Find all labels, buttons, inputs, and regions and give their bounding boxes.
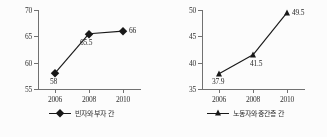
- x-tick-mark-right: [219, 89, 220, 93]
- data-point-marker: [284, 9, 290, 15]
- data-point-label: 41.5: [250, 59, 262, 68]
- y-tick-mark-right: [198, 89, 202, 90]
- legend-marker-diamond: [49, 113, 71, 114]
- y-tick-label-right: 35: [189, 85, 196, 94]
- x-tick-mark-right: [287, 89, 288, 93]
- data-point-label: 37.9: [212, 77, 224, 86]
- y-tick-label-left: 70: [25, 6, 32, 15]
- data-point-marker: [216, 70, 222, 76]
- chart-panel-rich-poor-gap: 70 65 60 55 2006 2008 2010 58 65.5: [0, 0, 163, 137]
- y-tick-label-right: 40: [189, 58, 196, 67]
- figure-container: 70 65 60 55 2006 2008 2010 58 65.5: [0, 0, 327, 137]
- chart-panel-worker-middleclass-gap: 50 45 40 35 2006 2008 2010 37.9 41.5: [164, 0, 327, 137]
- x-tick-label-left: 2008: [82, 95, 96, 104]
- legend-label-worker-middleclass-gap: 노동자와 중간층 간: [233, 108, 284, 118]
- plot-area-right: 50 45 40 35 2006 2008 2010 37.9 41.5: [202, 10, 304, 89]
- data-point-label: 49.5: [292, 8, 304, 17]
- y-tick-mark-left: [34, 89, 38, 90]
- x-tick-label-left: 2006: [48, 95, 62, 104]
- x-tick-label-right: 2008: [246, 95, 260, 104]
- y-tick-label-left: 65: [25, 32, 32, 41]
- x-tick-label-right: 2006: [212, 95, 226, 104]
- y-tick-label-left: 60: [25, 58, 32, 67]
- legend-label-rich-poor-gap: 빈자와 부자 간: [75, 108, 114, 118]
- y-tick-label-right: 45: [189, 32, 196, 41]
- x-tick-mark-left: [55, 89, 56, 93]
- legend-right: 노동자와 중간층 간: [164, 108, 327, 118]
- x-tick-label-left: 2010: [116, 95, 130, 104]
- legend-marker-triangle: [207, 113, 229, 114]
- x-tick-label-right: 2010: [280, 95, 294, 104]
- data-point-label: 58: [50, 77, 57, 86]
- legend-left: 빈자와 부자 간: [0, 108, 163, 118]
- x-tick-mark-right: [253, 89, 254, 93]
- y-tick-label-left: 55: [25, 85, 32, 94]
- x-tick-mark-left: [123, 89, 124, 93]
- data-point-label: 65.5: [80, 38, 92, 47]
- y-tick-label-right: 50: [189, 6, 196, 15]
- x-tick-mark-left: [89, 89, 90, 93]
- data-point-marker: [250, 51, 256, 57]
- plot-area-left: 70 65 60 55 2006 2008 2010 58 65.5: [38, 10, 140, 89]
- data-point-label: 66: [129, 26, 136, 35]
